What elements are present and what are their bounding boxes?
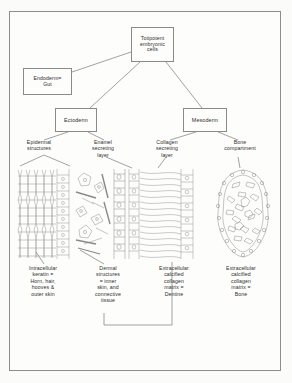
caption-extracellular-matrix-dentine: Extracellular calcified collagen matrix … xyxy=(146,265,202,297)
caption-dermal-structures: Dermal structures = inner skin, and conn… xyxy=(80,265,136,304)
node-mesoderm: Mesoderm xyxy=(183,108,227,132)
caption-intracellular-keratin: Intracellular keratin = Horn, hair, hoov… xyxy=(13,265,73,297)
label-epidermal-structures: Epidermal structures xyxy=(11,139,67,152)
caption-extracellular-matrix-bone: Extracellular calcified collagen matrix … xyxy=(212,265,270,297)
micrograph-epidermis-keratin xyxy=(16,168,70,260)
micrograph-bone-trabecula xyxy=(213,168,273,260)
micrograph-dentine-tubules xyxy=(128,168,194,260)
micrograph-dermis-connective-tissue xyxy=(74,168,126,260)
node-endoderm-gut: Endoderm= Gut xyxy=(23,68,72,95)
label-bone-compartment: Bone compartment xyxy=(209,139,271,152)
figure-page: Totipotent embryonic cells Endoderm= Gut… xyxy=(0,0,292,383)
node-totipotent-embryonic-cells: Totipotent embryonic cells xyxy=(131,27,174,62)
label-enamel-secreting-layer: Enamel secreting layer xyxy=(77,139,129,158)
node-ectoderm: Ectoderm xyxy=(55,108,97,132)
label-collagen-secreting-layer: Collagen secreting layer xyxy=(141,139,193,158)
